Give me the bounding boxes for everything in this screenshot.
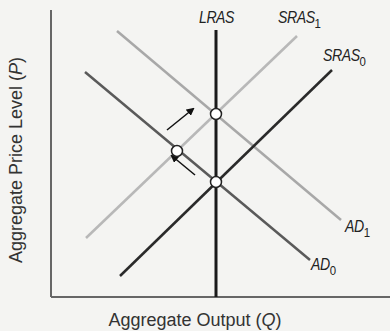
ad0-label: AD0 — [311, 256, 336, 278]
sras1-label-sub: 1 — [315, 16, 321, 31]
x-axis-label: Aggregate Output (Q) — [0, 310, 390, 331]
lras-label: LRAS — [199, 9, 234, 27]
y-axis-label: Aggregate Price Level (P) — [6, 57, 27, 263]
ad1-label-main: AD — [345, 218, 364, 235]
sras0-label: SRAS0 — [323, 47, 366, 69]
lras-label-text: LRAS — [199, 9, 234, 26]
sras0-label-main: SRAS — [323, 47, 360, 64]
shift-arrow-up — [167, 109, 193, 130]
shift-arrow-left — [172, 156, 195, 175]
equilibrium-point-middle — [172, 146, 183, 157]
sras0-label-sub: 0 — [360, 54, 366, 69]
equilibrium-point-lower — [211, 177, 222, 188]
sras1-label: SRAS1 — [278, 9, 321, 31]
sras0-curve — [120, 70, 332, 276]
ad0-label-sub: 0 — [330, 263, 336, 278]
ad0-label-main: AD — [311, 256, 330, 273]
equilibrium-point-upper — [211, 109, 222, 120]
ad1-label: AD1 — [345, 218, 370, 240]
ad1-label-sub: 1 — [364, 225, 370, 240]
sras1-label-main: SRAS — [278, 9, 315, 26]
